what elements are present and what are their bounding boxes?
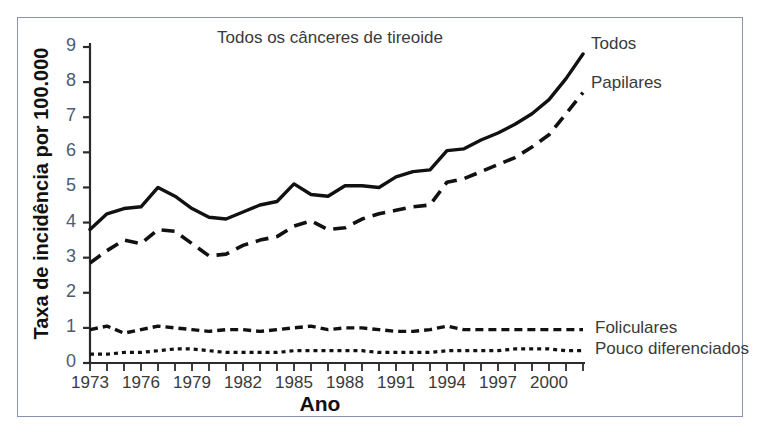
series-line-papilares (90, 93, 583, 263)
series-line-todos (90, 54, 583, 230)
series-group (90, 54, 583, 354)
series-line-foliculares (90, 326, 583, 333)
series-line-pouco-diferenciados (90, 349, 583, 354)
axis-group (83, 43, 585, 371)
plot-canvas (0, 0, 762, 443)
figure-panel: Todos os cânceres de tireoide Taxa de in… (0, 0, 762, 443)
